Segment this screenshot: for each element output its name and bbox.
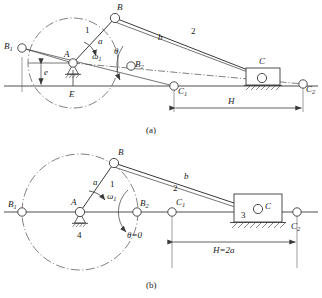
label-B1-a: B1: [4, 42, 13, 51]
label-link-4-b: 4: [77, 231, 82, 240]
label-link-3-b: 3: [241, 211, 246, 220]
label-omega1-b: ω1: [107, 192, 117, 201]
caption-b: (b): [146, 281, 157, 290]
label-stroke-H-b: H=2a: [213, 246, 235, 255]
joint-A-b: [75, 207, 84, 216]
joint-B2-b: [133, 208, 141, 216]
label-coupler-length-b: b: [184, 172, 189, 181]
label-C2-a: C2: [306, 85, 315, 94]
caption-a: (a): [146, 126, 156, 135]
label-theta-zero-b: θ=0: [127, 231, 142, 240]
label-link-1-b: 1: [110, 180, 115, 189]
joint-B-a: [110, 13, 119, 22]
joint-C-b: [253, 204, 262, 213]
joint-C2-b: [293, 208, 301, 216]
label-B-b: B: [118, 148, 124, 157]
label-offset-e-a: e: [44, 68, 48, 77]
joint-B-b: [109, 158, 118, 167]
diagram-a: [4, 13, 318, 112]
label-theta-a: θ: [114, 47, 118, 56]
label-C1-a: C1: [178, 87, 187, 96]
joint-C1-b: [168, 208, 176, 216]
label-B2-b: B2: [140, 199, 149, 208]
label-C-a: C: [259, 57, 265, 66]
label-C-b: C: [265, 202, 271, 211]
slider-ground-hatch-b: [232, 223, 285, 228]
label-link-2-a: 2: [191, 27, 196, 36]
label-link-2-b: 2: [173, 184, 178, 193]
diagram-b: [4, 154, 318, 270]
label-coupler-length-a: b: [158, 33, 163, 42]
joint-B1-a: [18, 44, 26, 52]
label-B-a: B: [117, 3, 123, 12]
label-crank-length-b: a: [93, 178, 98, 187]
joint-C1-a: [170, 82, 178, 90]
label-A-a: A: [64, 50, 70, 59]
label-C2-b: C2: [291, 222, 300, 231]
label-crank-length-a: a: [98, 37, 103, 46]
joint-B1-b: [18, 208, 26, 216]
label-A-b: A: [71, 198, 77, 207]
label-B2-a: B2: [135, 60, 144, 69]
crank-angle-arc-b: [118, 190, 128, 232]
label-link-1-a: 1: [85, 26, 90, 35]
joint-B2-a: [127, 62, 135, 70]
crank-link-b: [80, 163, 114, 212]
joint-A-a: [69, 59, 77, 67]
label-C1-b: C1: [176, 198, 185, 207]
label-omega1-a: ω1: [92, 52, 102, 61]
joint-C-a: [257, 73, 266, 82]
figure-canvas: B1 A B B2 C1 C C2 E a 1 b 2 e H θ ω1 (a)…: [0, 0, 322, 298]
label-E-a: E: [69, 90, 75, 99]
label-B1-b: B1: [8, 200, 17, 209]
mechanism-svg: [0, 0, 322, 298]
slider-ground-hatch-a: [246, 86, 280, 90]
label-stroke-H-a: H: [228, 97, 235, 106]
